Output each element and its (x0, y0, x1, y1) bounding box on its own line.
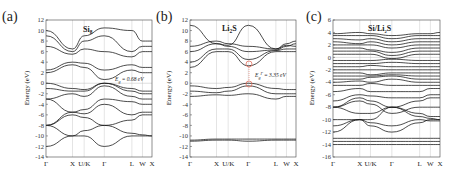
x-tick-label: X (293, 160, 298, 168)
axes-a: ΓXU/KΓLWX121086420-2-4-6-8-10-12-14 (35, 16, 154, 168)
y-tick-label: -6 (39, 111, 45, 118)
x-tick-label: W (427, 160, 434, 168)
panel-letter-b: (b) (156, 9, 173, 25)
y-tick-label: 6 (41, 48, 45, 55)
band-line (333, 42, 440, 45)
x-tick-label: X (149, 160, 154, 168)
y-tick-label: -14 (322, 141, 331, 148)
y-tick-label: 8 (41, 37, 44, 44)
band-line (333, 65, 440, 66)
band-line (333, 79, 440, 82)
title-b: Li2S (222, 24, 237, 34)
y-tick-label: -6 (183, 111, 189, 118)
band-line (333, 73, 440, 75)
y-tick-label: 12 (38, 16, 45, 23)
x-tick-label: U/K (78, 160, 90, 168)
y-tick-label: -8 (326, 103, 331, 110)
band-line (333, 39, 440, 42)
plot-frame (46, 20, 152, 157)
band-line (333, 62, 440, 63)
axes-c: ΓXU/KΓLWX6420-2-4-6-8-10-12-14-16 (322, 16, 442, 168)
band-line (333, 76, 440, 79)
band-line (190, 86, 296, 94)
band-line (333, 59, 440, 60)
panel-b: (b) Energy (eV) ΓXU/KΓLWX121086420-2-4-6… (156, 9, 299, 168)
title-c: Si/Li2S (368, 24, 392, 34)
y-tick-label: 4 (41, 58, 45, 65)
y-tick-label: 6 (185, 48, 189, 55)
band-line (190, 94, 296, 99)
band-line (333, 120, 440, 126)
x-tick-label: X (357, 160, 362, 168)
y-axis-label-b: Energy (eV) (165, 70, 173, 105)
band-line (46, 28, 152, 49)
y-tick-label: -12 (322, 128, 331, 135)
x-tick-label: U/K (222, 160, 234, 168)
y-axis-label-a: Energy (eV) (23, 70, 31, 105)
x-tick-label: X (70, 160, 75, 168)
panel-a: (a) Energy (eV) ΓXU/KΓLWX121086420-2-4-6… (2, 9, 155, 168)
band-line (46, 86, 152, 99)
y-tick-label: 0 (185, 79, 188, 86)
x-tick-label: W (139, 160, 146, 168)
band-line (190, 140, 296, 141)
x-tick-label: X (437, 160, 442, 168)
y-tick-label: -2 (39, 90, 44, 97)
y-tick-label: 12 (182, 16, 189, 23)
y-tick-label: 2 (41, 69, 44, 76)
x-tick-label: Γ (44, 160, 48, 168)
band-line (333, 45, 440, 48)
band-structure-figure: (a) Energy (eV) ΓXU/KΓLWX121086420-2-4-6… (0, 0, 461, 176)
x-tick-label: L (274, 160, 278, 168)
y-axis-label-c: Energy (eV) (308, 70, 316, 105)
x-tick-label: Γ (102, 160, 106, 168)
y-tick-label: -10 (35, 132, 44, 139)
band-line (333, 107, 440, 119)
y-tick-label: -10 (179, 132, 188, 139)
band-line (46, 136, 152, 147)
x-tick-label: Γ (331, 160, 335, 168)
x-tick-label: X (214, 160, 219, 168)
band-line (333, 98, 440, 107)
y-tick-label: -8 (39, 122, 44, 129)
y-tick-label: 4 (328, 29, 332, 36)
x-tick-label: U/K (364, 160, 376, 168)
y-tick-label: 6 (328, 16, 332, 23)
x-tick-label: Γ (390, 160, 394, 168)
band-line (190, 25, 296, 49)
title-a: Si8 (83, 25, 93, 35)
y-tick-label: 0 (41, 79, 44, 86)
y-tick-label: -4 (39, 101, 45, 108)
y-tick-label: 8 (185, 37, 188, 44)
y-tick-label: 0 (328, 54, 331, 61)
y-tick-label: -12 (179, 143, 188, 150)
panel-letter-c: (c) (306, 9, 322, 25)
band-gap-annotation-b: EgΓ = 3.35 eV (254, 71, 287, 80)
band-line (333, 89, 440, 92)
x-tick-label: Γ (246, 160, 250, 168)
y-tick-label: -4 (183, 101, 189, 108)
band-line (46, 104, 152, 125)
band-line (46, 83, 152, 94)
panel-c: (c) Energy (eV) ΓXU/KΓLWX6420-2-4-6-8-10… (306, 9, 443, 168)
x-tick-label: L (418, 160, 422, 168)
band-line (333, 36, 440, 39)
band-line (190, 52, 296, 68)
y-tick-label: -8 (183, 122, 188, 129)
x-tick-label: L (130, 160, 134, 168)
panel-letter-a: (a) (2, 9, 18, 25)
y-tick-label: -14 (35, 153, 44, 160)
y-tick-label: -14 (179, 153, 188, 160)
x-tick-label: Γ (188, 160, 192, 168)
x-tick-label: W (283, 160, 290, 168)
band-line (333, 48, 440, 52)
band-line (46, 62, 152, 70)
y-tick-label: -6 (326, 91, 332, 98)
band-line (46, 125, 152, 136)
y-tick-label: 10 (38, 27, 45, 34)
band-gap-annotation-a: Eg = 0.68 eV (114, 76, 144, 84)
y-tick-label: 2 (328, 41, 331, 48)
y-tick-label: 4 (185, 58, 189, 65)
band-line (46, 46, 152, 57)
y-tick-label: -2 (326, 66, 331, 73)
